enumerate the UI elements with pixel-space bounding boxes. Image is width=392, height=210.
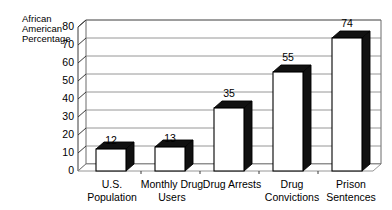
- chart-page: African American Percentage: [0, 0, 392, 210]
- bar-front-drug-arrests: [214, 108, 244, 171]
- bar-group-drug-arrests[interactable]: 35: [214, 87, 252, 171]
- bar-side-drug-convictions: [303, 65, 311, 171]
- bar-front-prison-sentences: [332, 38, 362, 171]
- ytick-70: [78, 38, 86, 45]
- ytick-40: [78, 92, 86, 99]
- x-label-drug-arrests-line-1: Drug Arrests: [203, 178, 261, 190]
- y-tick-label-60: 60: [62, 56, 74, 68]
- y-tick-label-50: 50: [62, 74, 74, 86]
- bar-value-monthly-drug-users: 13: [164, 132, 176, 144]
- ytick-30: [78, 110, 86, 117]
- bar-value-us-population: 12: [105, 134, 117, 146]
- x-label-us-population-line-2: Population: [87, 191, 137, 203]
- y-tick-label-20: 20: [62, 128, 74, 140]
- x-label-drug-convictions-line-1: Drug: [281, 178, 304, 190]
- y-tick-label-0: 0: [68, 164, 74, 176]
- ytick-10: [78, 146, 86, 153]
- bar-side-prison-sentences: [362, 31, 370, 171]
- bar-chart: African American Percentage: [0, 0, 392, 210]
- x-label-monthly-drug-users-line-1: Monthly Drug: [141, 178, 204, 190]
- ytick-50: [78, 74, 86, 81]
- y-tick-label-40: 40: [62, 92, 74, 104]
- x-label-prison-sentences-line-1: Prison: [336, 178, 366, 190]
- bar-value-drug-arrests: 35: [223, 87, 235, 99]
- x-label-monthly-drug-users-line-2: Users: [158, 191, 185, 203]
- x-axis-category-labels: U.S. Population Monthly Drug Users Drug …: [87, 178, 376, 203]
- y-tick-label-10: 10: [62, 146, 74, 158]
- x-label-us-population-line-1: U.S.: [102, 178, 122, 190]
- bar-front-monthly-drug-users: [155, 147, 185, 171]
- bar-front-drug-convictions: [273, 72, 303, 171]
- x-label-drug-convictions-line-2: Convictions: [265, 191, 319, 203]
- bar-value-drug-convictions: 55: [282, 51, 294, 63]
- bar-group-prison-sentences[interactable]: 74: [332, 17, 370, 171]
- ytick-20: [78, 128, 86, 135]
- bar-group-monthly-drug-users[interactable]: 13: [155, 132, 193, 171]
- y-axis: [78, 20, 86, 171]
- y-axis-tick-labels: 80 70 60 50 40 30 20 10 0: [62, 20, 74, 176]
- bar-side-drug-arrests: [244, 101, 252, 171]
- y-tick-label-80: 80: [62, 20, 74, 32]
- ytick-80: [78, 20, 86, 27]
- bar-group-drug-convictions[interactable]: 55: [273, 51, 311, 171]
- x-label-prison-sentences-line-2: Sentences: [326, 191, 376, 203]
- bar-value-prison-sentences: 74: [341, 17, 353, 29]
- bar-group-us-population[interactable]: 12: [96, 134, 134, 171]
- ytick-60: [78, 56, 86, 63]
- y-tick-label-70: 70: [62, 38, 74, 50]
- y-tick-label-30: 30: [62, 110, 74, 122]
- bar-front-us-population: [96, 149, 126, 171]
